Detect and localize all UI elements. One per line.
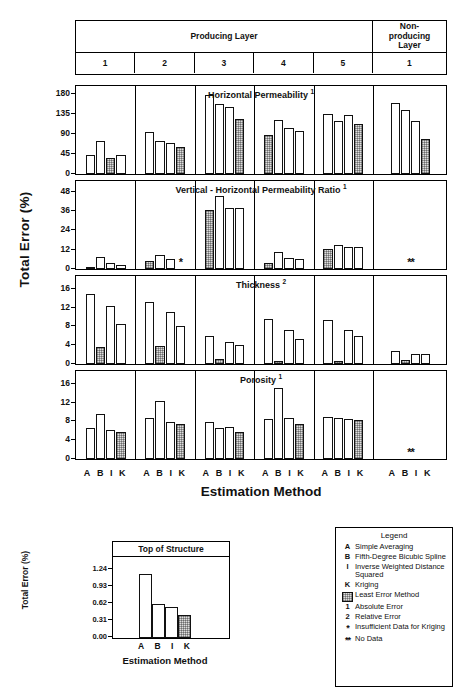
y-axis-tick-label: 8 <box>65 415 70 425</box>
y-axis-tick-label: 0 <box>65 358 70 368</box>
inset-x-label-A: A <box>138 641 144 651</box>
bar-A <box>145 261 154 269</box>
bar-K <box>176 147 185 174</box>
inset-y-axis-title: Total Error (%) <box>20 535 30 625</box>
x-axis-method-labels-group-5: ABIK <box>321 468 363 478</box>
bar-K <box>421 354 430 364</box>
chart-title: Thickness 2 <box>76 278 446 290</box>
bar-K <box>421 139 430 174</box>
x-axis-label-K: K <box>297 468 304 478</box>
y-axis-tick <box>71 113 76 114</box>
chart-title: Porosity 1 <box>76 373 446 385</box>
bar-I <box>225 208 234 269</box>
x-axis-label-K: K <box>119 468 126 478</box>
nonproducing-layer-header: Non- producing Layer <box>373 21 446 52</box>
inset-chart-title: Top of Structure <box>112 541 230 557</box>
inset-y-tick <box>108 602 113 603</box>
legend-rows: ASimple AveragingBFifth-Degree Bicubic S… <box>340 543 448 645</box>
bar-K <box>354 124 363 174</box>
inset-x-label-I: I <box>171 641 173 651</box>
legend-item: 1Absolute Error <box>340 603 448 611</box>
bar-A <box>205 210 214 269</box>
y-axis-tick-label: 0 <box>65 168 70 178</box>
y-axis-tick <box>71 344 76 345</box>
bar-K <box>116 432 125 459</box>
legend-box: Legend ASimple AveragingBFifth-Degree Bi… <box>335 527 453 687</box>
chart-title-footnote: 1 <box>343 183 347 190</box>
bar-B <box>215 104 224 174</box>
legend-item: KKriging <box>340 581 448 589</box>
inset-bar-A <box>139 574 152 638</box>
bar-A <box>323 417 332 459</box>
bar-K <box>235 432 244 459</box>
inset-y-tick-label: 0.31 <box>92 614 107 623</box>
bar-K <box>354 420 363 459</box>
layer-number-p3: 3 <box>195 53 254 73</box>
inset-x-label-B: B <box>155 641 161 651</box>
inset-y-tick <box>108 619 113 620</box>
y-axis-tick <box>71 420 76 421</box>
bar-B <box>274 361 283 364</box>
bar-B <box>96 347 105 364</box>
legend-key: K <box>340 581 355 589</box>
inset-y-tick-label: 0.00 <box>92 632 107 641</box>
bar-B <box>401 360 410 364</box>
bar-B <box>215 359 224 364</box>
y-axis-tick-label: 4 <box>65 434 70 444</box>
bar-A <box>205 422 214 459</box>
y-axis-tick-label: 0 <box>65 263 70 273</box>
x-axis-label-A: A <box>203 468 210 478</box>
legend-item: ASimple Averaging <box>340 543 448 551</box>
bar-B <box>274 120 283 174</box>
bar-A <box>86 428 95 459</box>
x-axis-method-labels-group-4: ABIK <box>262 468 304 478</box>
x-axis-label-A: A <box>389 468 396 478</box>
y-axis-tick <box>71 229 76 230</box>
bar-I <box>344 247 353 269</box>
legend-item: IInverse Weighted Distance Squared <box>340 563 448 580</box>
x-axis-method-labels-group-6: ABIK <box>389 468 431 478</box>
x-axis-label-A: A <box>143 468 150 478</box>
data-note-marker: ** <box>407 447 414 458</box>
bar-I <box>166 312 175 364</box>
y-axis-tick-label: 4 <box>65 339 70 349</box>
legend-key: * <box>340 623 355 633</box>
bar-K <box>235 345 244 364</box>
y-axis-tick <box>71 439 76 440</box>
bar-K <box>235 208 244 269</box>
x-axis-label-K: K <box>238 468 245 478</box>
data-note-marker: ** <box>407 257 414 268</box>
inset-x-label-K: K <box>184 641 190 651</box>
bar-A <box>264 263 273 269</box>
bar-A <box>86 155 95 174</box>
x-axis-label-A: A <box>84 468 91 478</box>
x-axis-method-labels-group-1: ABIK <box>84 468 126 478</box>
bar-K <box>295 259 304 269</box>
bar-B <box>155 255 164 269</box>
x-axis-label-B: B <box>402 468 409 478</box>
layer-number-p4: 4 <box>254 53 313 73</box>
bar-A <box>264 319 273 364</box>
y-axis-tick <box>71 173 76 174</box>
legend-key: I <box>340 563 355 580</box>
x-axis-label-A: A <box>321 468 328 478</box>
x-axis-label-I: I <box>288 468 291 478</box>
bar-I <box>284 128 293 174</box>
bar-B <box>274 388 283 459</box>
x-axis-label-I: I <box>229 468 232 478</box>
bar-K <box>235 119 244 174</box>
bar-I <box>225 107 234 174</box>
bar-A <box>391 351 400 364</box>
legend-item: *Insufficient Data for Kriging <box>340 623 448 633</box>
bar-B <box>334 121 343 174</box>
inset-y-tick <box>108 636 113 637</box>
bar-K <box>354 336 363 364</box>
bar-I <box>344 330 353 364</box>
bar-I <box>225 342 234 364</box>
legend-key: 2 <box>340 613 355 621</box>
bar-A <box>205 95 214 174</box>
bar-I <box>106 263 115 269</box>
y-axis-tick-label: 0 <box>65 453 70 463</box>
chart-panel-3: Thickness 20481216 <box>75 275 447 365</box>
layer-header-bottom-row: 1 2 3 4 5 1 <box>76 52 446 73</box>
